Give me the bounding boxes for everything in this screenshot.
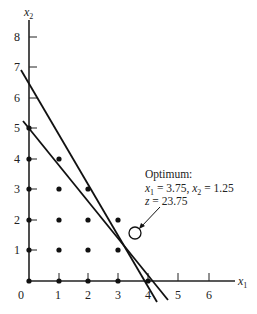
svg-text:1: 1 <box>55 288 61 302</box>
svg-text:3: 3 <box>14 182 20 196</box>
svg-text:z = 23.75: z = 23.75 <box>144 195 188 207</box>
svg-text:6: 6 <box>206 288 212 302</box>
x-ticks <box>59 273 209 281</box>
svg-text:5: 5 <box>14 121 20 135</box>
svg-text:2: 2 <box>85 288 91 302</box>
svg-text:1: 1 <box>14 243 20 257</box>
y-axis-title: x2 <box>23 5 33 21</box>
annotation-arrow <box>141 207 160 227</box>
x-tick-labels: 0 1 2 3 4 5 6 <box>18 288 212 302</box>
chart-canvas: 1 2 3 4 5 6 7 8 0 1 2 3 4 5 6 x2 x1 Opti… <box>0 0 257 314</box>
optimum-annotation: Optimum: x1 = 3.75, x2 = 1.25 z = 23.75 <box>144 168 234 207</box>
svg-text:0: 0 <box>18 288 24 302</box>
x-axis-title: x1 <box>237 274 247 290</box>
svg-text:8: 8 <box>14 30 20 44</box>
constraint-line-1 <box>23 121 168 300</box>
constraint-line-2 <box>21 70 157 302</box>
svg-text:5: 5 <box>175 288 181 302</box>
svg-text:4: 4 <box>14 152 20 166</box>
svg-text:Optimum:: Optimum: <box>145 168 192 181</box>
svg-text:6: 6 <box>14 91 20 105</box>
svg-text:7: 7 <box>14 60 20 74</box>
svg-text:2: 2 <box>14 213 20 227</box>
svg-text:3: 3 <box>115 288 121 302</box>
y-tick-labels: 1 2 3 4 5 6 7 8 <box>14 30 20 257</box>
